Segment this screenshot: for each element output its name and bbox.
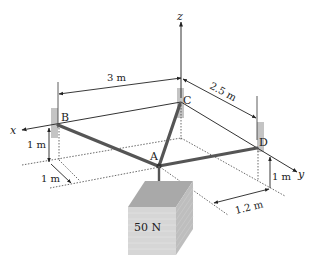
cable-AD bbox=[159, 148, 257, 166]
floor-line-5 bbox=[59, 160, 80, 181]
load-label: 50 N bbox=[134, 221, 161, 234]
y-axis-label: y bbox=[297, 168, 305, 181]
x-axis bbox=[22, 102, 181, 130]
dim-2-5m-label: 2.5 m bbox=[208, 80, 239, 103]
dim-D-height-label: 1 m bbox=[272, 171, 292, 182]
support-B bbox=[51, 108, 58, 138]
cable-AC bbox=[159, 104, 180, 166]
floor-line-3 bbox=[181, 138, 285, 196]
dim-D-offset-label: 1.2 m bbox=[234, 198, 265, 216]
point-A-label: A bbox=[149, 150, 159, 163]
z-axis-label: z bbox=[176, 10, 183, 23]
cable-AB bbox=[58, 125, 158, 166]
point-D-label: D bbox=[259, 136, 268, 149]
point-B-label: B bbox=[61, 111, 69, 124]
dim-3m-label: 3 m bbox=[107, 72, 127, 83]
diagram-canvas: z x y 3 m 2.5 m 1 m 1 m 1 m 1.2 m bbox=[0, 0, 321, 258]
dim-B-height-label: 1 m bbox=[27, 139, 47, 150]
crate: 50 N bbox=[128, 181, 193, 255]
y-axis bbox=[181, 102, 297, 172]
dim-B-offset-label: 1 m bbox=[41, 173, 61, 184]
point-C-label: C bbox=[183, 94, 191, 107]
x-axis-label: x bbox=[10, 124, 17, 137]
